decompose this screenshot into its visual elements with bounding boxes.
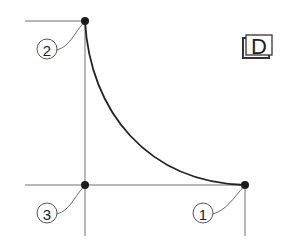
leader-line-1 bbox=[213, 185, 245, 214]
point-2 bbox=[81, 17, 89, 25]
leader-line-3 bbox=[57, 185, 85, 214]
point-3 bbox=[81, 181, 89, 189]
point-1 bbox=[241, 181, 249, 189]
label-3-text: 3 bbox=[43, 206, 51, 223]
label-1-text: 1 bbox=[199, 206, 207, 223]
label-2-text: 2 bbox=[43, 42, 51, 59]
leader-line-2 bbox=[57, 21, 85, 50]
label-3: 3 bbox=[37, 203, 57, 223]
label-1: 1 bbox=[193, 203, 213, 223]
badge-d-text: D bbox=[251, 34, 267, 59]
badge-d: D bbox=[243, 34, 272, 59]
label-2: 2 bbox=[37, 39, 57, 59]
concave-curve bbox=[85, 21, 245, 185]
diagram-canvas: 2 3 1 D bbox=[0, 0, 283, 242]
